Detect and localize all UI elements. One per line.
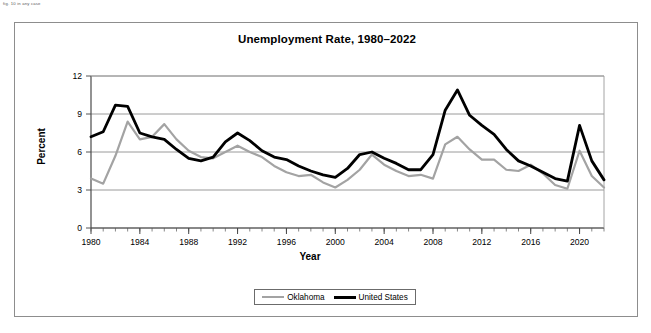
svg-text:1984: 1984: [130, 237, 149, 247]
x-axis-label: Year: [15, 251, 605, 262]
svg-text:1988: 1988: [179, 237, 198, 247]
svg-text:6: 6: [77, 147, 82, 157]
legend-label-united-states: United States: [359, 293, 408, 302]
screenshot-root: fig. 10 in any case Unemployment Rate, 1…: [0, 0, 651, 333]
svg-text:0: 0: [77, 223, 82, 233]
corner-note: fig. 10 in any case: [3, 1, 41, 6]
legend-label-oklahoma: Oklahoma: [287, 293, 324, 302]
svg-text:2004: 2004: [375, 237, 394, 247]
legend-swatch-oklahoma-icon: [262, 296, 284, 298]
svg-text:2012: 2012: [472, 237, 491, 247]
svg-text:12: 12: [72, 71, 82, 81]
line-chart-plot: 0369121980198419881992199620002004200820…: [15, 23, 639, 283]
legend-item-united-states: United States: [334, 293, 408, 302]
svg-text:9: 9: [77, 109, 82, 119]
legend-swatch-united-states-icon: [334, 296, 356, 299]
legend-item-oklahoma: Oklahoma: [262, 293, 324, 302]
chart-legend: Oklahoma United States: [254, 289, 416, 305]
svg-text:1996: 1996: [277, 237, 296, 247]
svg-text:2000: 2000: [326, 237, 345, 247]
svg-text:2020: 2020: [570, 237, 589, 247]
svg-text:2008: 2008: [423, 237, 442, 247]
figure-frame: Unemployment Rate, 1980–2022 Percent 036…: [14, 22, 638, 317]
svg-text:3: 3: [77, 185, 82, 195]
svg-text:1992: 1992: [228, 237, 247, 247]
svg-text:1980: 1980: [81, 237, 100, 247]
svg-text:2016: 2016: [521, 237, 540, 247]
